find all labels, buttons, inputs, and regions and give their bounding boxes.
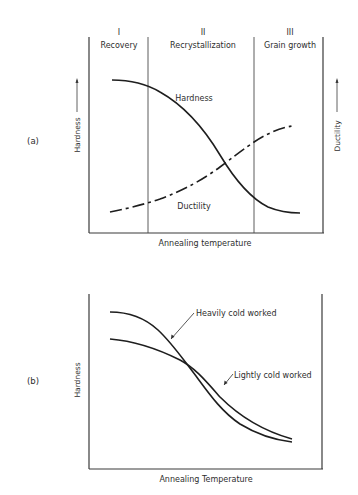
panel-a-y-right-label: Ductility — [333, 120, 342, 152]
ductility-up-arrow-icon — [336, 78, 339, 112]
ductility-curve — [110, 126, 292, 212]
hardness-up-arrow-icon — [76, 78, 79, 112]
diagram-canvas: I Recovery II Recrystallization III Grai… — [0, 0, 358, 495]
panel-a-x-label: Annealing temperature — [159, 239, 252, 248]
panel-b-y-label: Hardness — [73, 362, 82, 397]
panel-a: I Recovery II Recrystallization III Grai… — [27, 28, 342, 248]
region-3-numeral: III — [286, 28, 293, 37]
heavy-leader-line — [171, 313, 194, 339]
panel-b-tag: (b) — [27, 376, 39, 386]
panel-a-tag: (a) — [27, 136, 39, 146]
panel-a-y-left-label: Hardness — [73, 117, 82, 152]
ductility-curve-label: Ductility — [177, 202, 211, 211]
region-2-numeral: II — [201, 28, 206, 37]
hardness-curve-label: Hardness — [175, 94, 212, 103]
region-2-label: Recrystallization — [170, 41, 236, 50]
lightly-cold-worked-curve — [110, 339, 292, 439]
lightly-cold-worked-label: Lightly cold worked — [234, 371, 312, 380]
heavily-cold-worked-label: Heavily cold worked — [196, 309, 277, 318]
region-3-label: Grain growth — [264, 41, 316, 50]
panel-b: Heavily cold worked Lightly cold worked … — [27, 294, 323, 484]
region-1-numeral: I — [118, 28, 120, 37]
panel-b-x-label: Annealing Temperature — [159, 475, 252, 484]
region-1-label: Recovery — [100, 41, 137, 50]
